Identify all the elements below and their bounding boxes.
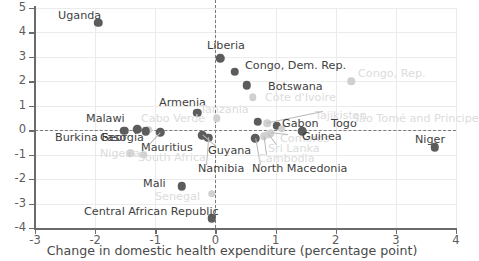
y-tick-label: -4 — [0, 222, 26, 233]
point-label: Gabon — [282, 118, 319, 130]
y-tick-label: -3 — [0, 198, 26, 209]
y-tick — [29, 204, 34, 205]
x-axis-title: Change in domestic health expenditure (p… — [0, 243, 464, 258]
point-label: Uganda — [58, 10, 101, 22]
data-point[interactable] — [230, 67, 239, 76]
y-tick — [29, 8, 34, 9]
data-point[interactable] — [249, 93, 257, 101]
y-tick-label: 5 — [0, 2, 26, 13]
gridline-horizontal — [35, 32, 456, 33]
y-tick-label: -2 — [0, 173, 26, 184]
data-point[interactable] — [208, 190, 216, 198]
point-label: Namibia — [198, 163, 244, 175]
point-label: Côte d'Ivoire — [265, 92, 336, 104]
data-point[interactable] — [242, 81, 251, 90]
point-label: São Tomé and Principe — [352, 113, 479, 125]
point-label: Tanzania — [200, 104, 249, 116]
y-tick-label: 3 — [0, 51, 26, 62]
y-tick-label: 1 — [0, 100, 26, 111]
gridline-horizontal — [35, 179, 456, 180]
y-tick — [29, 32, 34, 33]
point-label: South Africa — [138, 152, 206, 164]
y-tick — [29, 179, 34, 180]
data-point[interactable] — [253, 117, 262, 126]
x-axis-line — [34, 228, 457, 230]
gridline-vertical — [276, 8, 277, 228]
data-point[interactable] — [348, 78, 356, 86]
y-tick — [29, 130, 34, 131]
y-tick — [29, 57, 34, 58]
data-point[interactable] — [216, 54, 225, 63]
point-label: Central African Republic — [84, 206, 219, 218]
point-label: Guyana — [208, 145, 251, 157]
y-tick — [29, 228, 34, 229]
y-axis-line — [34, 6, 36, 230]
gridline-horizontal — [35, 57, 456, 58]
point-label: Niger — [415, 134, 445, 146]
y-tick-label: 0 — [0, 124, 26, 135]
y-tick-label: 2 — [0, 75, 26, 86]
y-tick — [29, 155, 34, 156]
point-label: Senegal — [155, 191, 200, 203]
point-label: Congo, Rep. — [358, 68, 426, 80]
point-label: Georgia — [100, 132, 144, 144]
point-label: Cabo Verde — [141, 113, 205, 125]
point-label: Malawi — [86, 113, 125, 125]
y-tick-label: 4 — [0, 26, 26, 37]
point-label: Armenia — [159, 97, 206, 109]
point-label: Mali — [143, 178, 166, 190]
y-tick — [29, 81, 34, 82]
point-label: Guinea — [302, 131, 342, 143]
y-tick-label: -1 — [0, 149, 26, 160]
point-label: Nigeria — [100, 148, 140, 160]
point-label: Congo, Dem. Rep. — [245, 60, 346, 72]
plot-area: UgandaLiberiaCongo, Dem. Rep.Congo, Rep.… — [35, 8, 456, 228]
point-label: Liberia — [207, 40, 245, 52]
y-tick — [29, 106, 34, 107]
